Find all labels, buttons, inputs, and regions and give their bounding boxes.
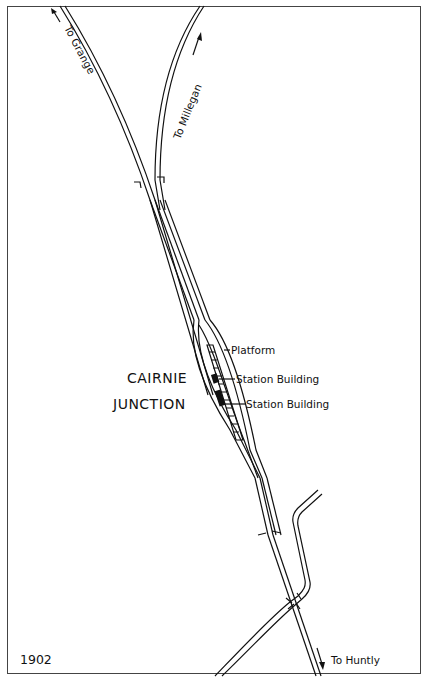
station-building-label-1: Station Building xyxy=(236,373,319,385)
grange-arrow-icon xyxy=(51,8,60,22)
title-junction: JUNCTION xyxy=(112,396,186,412)
year-label: 1902 xyxy=(20,652,52,667)
platform-label: Platform xyxy=(231,344,275,356)
title-cairnie: CAIRNIE xyxy=(127,370,187,386)
huntly-label: To Huntly xyxy=(330,654,380,666)
millegan-label: To Millegan xyxy=(170,82,203,142)
station-building-label-2: Station Building xyxy=(246,398,329,410)
station-building-1 xyxy=(211,373,219,383)
millegan-line xyxy=(155,6,204,210)
signal-marks xyxy=(134,177,281,535)
railway-diagram: To Grange To Millegan To Huntly CAIRNIE … xyxy=(0,0,427,683)
millegan-arrow-icon xyxy=(193,32,202,55)
